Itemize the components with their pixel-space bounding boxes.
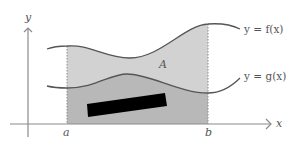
y-axis-label: y [24, 11, 32, 24]
area-between-curves-diagram: y x a b A y = f(x) y = g(x) [0, 0, 298, 146]
x-axis-label: x [276, 117, 283, 130]
curve-f-label: y = f(x) [243, 23, 283, 35]
curve-g-label: y = g(x) [243, 70, 286, 82]
bound-a-label: a [63, 126, 70, 139]
region-a-label: A [158, 58, 167, 71]
bound-b-label: b [205, 126, 212, 139]
